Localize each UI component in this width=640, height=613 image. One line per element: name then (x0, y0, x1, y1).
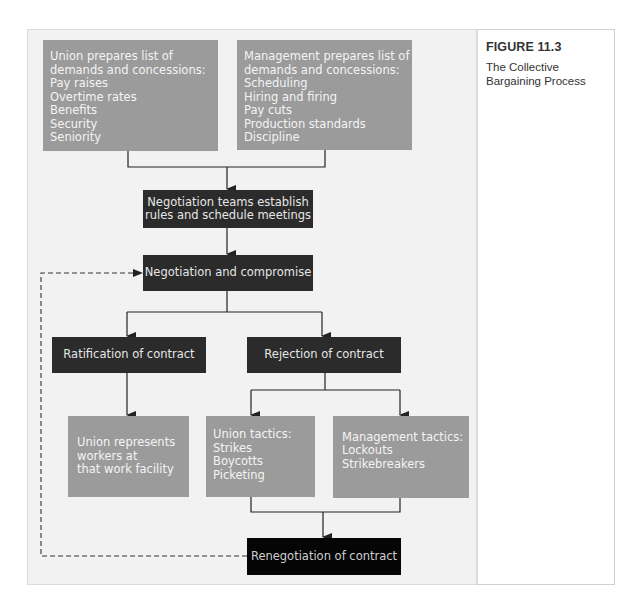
node-text: Negotiation teams establish (147, 196, 309, 210)
node-text: Security (50, 118, 211, 132)
node-text: Management prepares list of (244, 50, 405, 64)
renegotiation-box: Renegotiation of contract (247, 538, 401, 575)
union-prepares-box: Union prepares list of demands and conce… (43, 40, 218, 151)
node-text: Ratification of contract (63, 348, 194, 362)
node-text: Picketing (213, 469, 308, 483)
negotiation-teams-box: Negotiation teams establish rules and sc… (143, 190, 313, 228)
node-text: Management tactics: (342, 431, 463, 445)
node-text: Renegotiation of contract (251, 550, 397, 564)
node-text: Hiring and firing (244, 91, 405, 105)
node-text: Strikes (213, 442, 308, 456)
node-text: Scheduling (244, 77, 405, 91)
ratification-box: Ratification of contract (52, 337, 206, 373)
figure-label: FIGURE 11.3 (486, 40, 606, 54)
union-tactics-box: Union tactics: Strikes Boycotts Picketin… (206, 416, 315, 497)
node-text: Benefits (50, 104, 211, 118)
node-text: Overtime rates (50, 91, 211, 105)
management-prepares-box: Management prepares list of demands and … (237, 40, 412, 150)
node-text: Seniority (50, 131, 211, 145)
node-text-group: Management tactics: Lockouts Strikebreak… (342, 431, 463, 472)
node-text: Pay cuts (244, 104, 405, 118)
figure-title: The Collective Bargaining Process (486, 60, 606, 88)
node-text: Strikebreakers (342, 458, 463, 472)
node-text-group: Union represents workers at that work fa… (77, 436, 175, 477)
figure-title-line: Bargaining Process (486, 74, 606, 88)
node-text: Rejection of contract (264, 348, 383, 362)
rejection-box: Rejection of contract (247, 337, 401, 373)
node-text: demands and concessions: (50, 64, 211, 78)
node-text: Union prepares list of (50, 50, 211, 64)
node-text: Production standards (244, 118, 405, 132)
negotiation-compromise-box: Negotiation and compromise (143, 255, 313, 291)
node-text: Pay raises (50, 77, 211, 91)
node-text: Boycotts (213, 455, 308, 469)
node-text: that work facility (77, 463, 175, 477)
management-tactics-box: Management tactics: Lockouts Strikebreak… (333, 416, 469, 498)
node-text: Union represents (77, 436, 175, 450)
node-text: Union tactics: (213, 428, 308, 442)
figure-title-line: The Collective (486, 60, 606, 74)
node-text: rules and schedule meetings (145, 209, 311, 223)
node-text: Negotiation and compromise (145, 266, 312, 280)
node-text: Lockouts (342, 444, 463, 458)
union-represents-box: Union represents workers at that work fa… (68, 416, 189, 497)
node-text: workers at (77, 450, 175, 464)
node-text: Discipline (244, 131, 405, 145)
node-text: demands and concessions: (244, 64, 405, 78)
figure-caption-panel: FIGURE 11.3 The Collective Bargaining Pr… (477, 29, 615, 585)
